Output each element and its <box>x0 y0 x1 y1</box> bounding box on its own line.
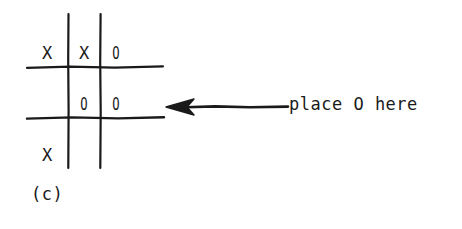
arrow-svg <box>160 92 292 122</box>
cell-0-0[interactable]: X <box>36 45 58 62</box>
left-arrow-icon <box>160 92 292 122</box>
grid-horizontal-line-2 <box>27 117 164 118</box>
cell-0-2[interactable]: O <box>108 45 124 62</box>
cell-1-1[interactable]: O <box>76 96 92 113</box>
cell-2-0[interactable]: X <box>36 147 58 164</box>
figure-panel: X X O O O X place O here (c) <box>0 0 462 229</box>
arrow-shaft <box>186 106 288 107</box>
annotation-label: place O here <box>289 94 418 114</box>
grid-horizontal-line-1 <box>27 66 163 67</box>
figure-caption: (c) <box>31 184 63 204</box>
cell-1-2[interactable]: O <box>108 96 124 113</box>
cell-0-1[interactable]: X <box>73 45 95 62</box>
grid-vertical-line-2 <box>100 14 101 168</box>
